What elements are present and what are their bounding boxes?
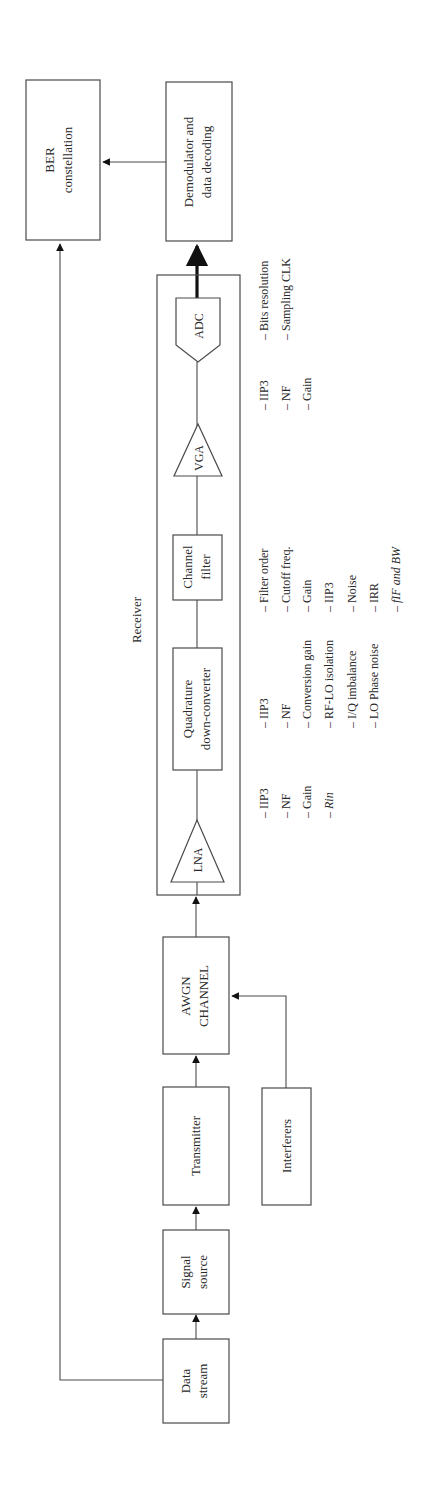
interferers-label: Interferers (279, 1119, 294, 1173)
lna-param-gain: – Gain (300, 786, 314, 819)
adc-params: – Bits resolution – Sampling CLK (257, 258, 293, 341)
channel-filter-block: Channel filter (173, 535, 222, 600)
adc-label: ADC (192, 313, 206, 338)
transmitter-block: Transmitter (163, 1087, 229, 1205)
receiver-title: Receiver (129, 596, 144, 643)
feedback-line (60, 244, 163, 1380)
filter-param-iip3: – IIP3 (322, 582, 336, 613)
demodulator-label-1: Demodulator and (181, 116, 196, 207)
demodulator-label-2: data decoding (199, 125, 214, 198)
lna-param-rin: – Rin (322, 792, 336, 819)
lna-label: LNA (191, 847, 205, 872)
vga-label: VGA (192, 445, 206, 471)
filter-param-gain: – Gain (300, 580, 314, 613)
awgn-label-2: CHANNEL (196, 965, 211, 1027)
data-stream-label-2: stream (195, 1364, 210, 1399)
quad-param-rf-lo-isolation: – RF-LO isolation (322, 640, 336, 729)
signal-source-label-1: Signal (178, 1255, 193, 1289)
quadrature-downconverter-block: Quadrature down-converter (173, 648, 222, 770)
filter-param-cutoff: – Cutoff freq. (279, 547, 293, 613)
quad-param-conversion-gain: – Conversion gain (300, 640, 314, 729)
filter-param-noise: – Noise (345, 575, 359, 613)
awgn-channel-block: AWGN CHANNEL (163, 937, 229, 1054)
interferers-block: Interferers (262, 1088, 311, 1205)
awgn-label-1: AWGN (178, 976, 193, 1016)
vga-param-nf: – NF (279, 385, 293, 411)
vga-params: – IIP3 – NF – Gain (257, 378, 314, 411)
transmitter-label: Transmitter (188, 1115, 203, 1176)
ber-label-1: BER (42, 147, 57, 173)
adc-param-sampling-clk: – Sampling CLK (279, 258, 293, 341)
arrow-interferers-to-awgn (232, 996, 286, 1088)
channel-filter-params: – Filter order – Cutoff freq. – Gain – I… (257, 546, 403, 613)
filter-param-order: – Filter order (257, 549, 271, 613)
lna-params: – IIP3 – NF – Gain – Rin (257, 786, 336, 819)
filter-param-fif-bw: – fIF and BW (389, 546, 403, 613)
quad-param-nf: – NF (279, 703, 293, 729)
lna-param-iip3: – IIP3 (257, 788, 271, 819)
quadrature-label-1: Quadrature (180, 680, 195, 739)
ber-constellation-block: BER constellation (26, 80, 100, 240)
vga-block: VGA (174, 424, 222, 476)
adc-param-bits-resolution: – Bits resolution (257, 261, 271, 341)
adc-block: ADC (176, 298, 220, 362)
quadrature-label-2: down-converter (198, 667, 213, 750)
lna-param-nf: – NF (279, 793, 293, 819)
signal-source-label-2: source (195, 1255, 210, 1289)
data-stream-label-1: Data (178, 1369, 193, 1394)
channel-filter-label-2: filter (198, 554, 213, 580)
vga-param-gain: – Gain (300, 378, 314, 411)
filter-param-irr: – IRR (367, 583, 381, 613)
quad-param-lo-phase-noise: – LO Phase noise (367, 644, 381, 729)
data-stream-block: Data stream (163, 1339, 229, 1423)
rf-receiver-block-diagram: Data stream Signal source Transmitter In… (0, 0, 421, 1507)
signal-source-block: Signal source (163, 1230, 229, 1314)
quad-param-iip3: – IIP3 (257, 698, 271, 729)
channel-filter-label-1: Channel (180, 545, 195, 589)
ber-label-2: constellation (60, 126, 75, 193)
quadrature-params: – IIP3 – NF – Conversion gain – RF-LO is… (257, 640, 381, 729)
quad-param-iq-imbalance: – I/Q imbalance (345, 651, 359, 729)
lna-block: LNA (171, 820, 224, 882)
vga-param-iip3: – IIP3 (257, 380, 271, 411)
demodulator-block: Demodulator and data decoding (166, 82, 232, 241)
